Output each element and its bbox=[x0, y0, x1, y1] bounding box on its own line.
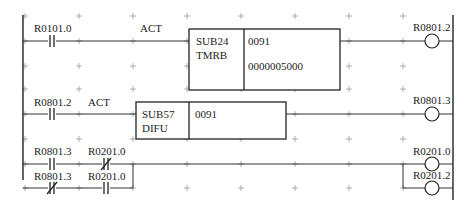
coil-label: R0801.2 bbox=[413, 21, 451, 33]
coil-r0801-3[interactable] bbox=[425, 107, 439, 121]
coil-label: R0801.3 bbox=[413, 94, 451, 106]
rung-3: R0801.3 R0201.0 R0801.3 R0201.0 bbox=[23, 145, 453, 195]
contact-label: R0801.3 bbox=[34, 170, 72, 182]
coil-r0801-2[interactable] bbox=[425, 34, 439, 48]
fb-sub-number: SUB57 bbox=[142, 108, 175, 120]
fb-name: DIFU bbox=[142, 122, 168, 134]
contact-label: R0801.3 bbox=[34, 145, 72, 157]
fb-param-1: 0091 bbox=[248, 35, 270, 47]
nc-contact-r0201-0[interactable] bbox=[101, 158, 111, 170]
function-block-tmrb[interactable]: SUB24 TMRB 0091 0000005000 bbox=[189, 29, 340, 90]
fb-sub-number: SUB24 bbox=[196, 35, 229, 47]
nc-contact-r0801-3[interactable] bbox=[47, 182, 57, 194]
contact-label: R0201.0 bbox=[88, 145, 126, 157]
coil-label: R0201.2 bbox=[413, 169, 451, 181]
fb-param-2: 0000005000 bbox=[248, 60, 304, 72]
rung-2: R0801.2 ACT SUB57 DIFU 0091 R0801.3 bbox=[23, 94, 453, 139]
no-contact-r0201-0[interactable] bbox=[104, 182, 108, 194]
contact-label: R0201.0 bbox=[88, 170, 126, 182]
act-label: ACT bbox=[88, 96, 110, 108]
contact-label: R0101.0 bbox=[34, 22, 72, 34]
coil-r0201-2[interactable] bbox=[425, 181, 439, 195]
fb-param-1: 0091 bbox=[195, 108, 217, 120]
fb-name: TMRB bbox=[196, 49, 227, 61]
no-contact-r0801-3[interactable] bbox=[50, 158, 54, 170]
ladder-diagram: R0101.0 ACT SUB24 TMRB 0091 0000005000 R… bbox=[0, 0, 476, 210]
act-label: ACT bbox=[140, 22, 162, 34]
function-block-difu[interactable]: SUB57 DIFU 0091 bbox=[136, 102, 286, 139]
no-contact-r0101-0[interactable] bbox=[50, 35, 54, 47]
rung-1: R0101.0 ACT SUB24 TMRB 0091 0000005000 R… bbox=[23, 21, 453, 90]
coil-label: R0201.0 bbox=[413, 145, 451, 157]
contact-label: R0801.2 bbox=[34, 96, 72, 108]
no-contact-r0801-2[interactable] bbox=[50, 108, 54, 120]
